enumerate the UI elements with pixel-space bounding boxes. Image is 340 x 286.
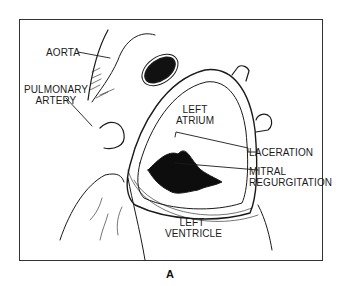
label-pulmonary-artery: PULMONARY ARTERY bbox=[24, 84, 88, 106]
label-left-ventricle-line1: LEFT bbox=[165, 217, 219, 228]
laceration-region bbox=[148, 151, 222, 193]
label-mitral-line2: REGURGITATION bbox=[249, 177, 332, 188]
left-ventricle-outline bbox=[60, 174, 124, 240]
heart-illustration bbox=[0, 0, 340, 286]
label-pulmonary-artery-line1: PULMONARY bbox=[24, 84, 88, 95]
label-mitral-line1: MITRAL bbox=[249, 166, 332, 177]
label-aorta: AORTA bbox=[46, 47, 80, 58]
panel-label: A bbox=[166, 268, 174, 280]
label-left-atrium-line1: LEFT bbox=[172, 104, 218, 115]
label-left-ventricle: LEFT VENTRICLE bbox=[165, 217, 219, 239]
aorta-pointer bbox=[78, 52, 110, 58]
label-left-atrium: LEFT ATRIUM bbox=[172, 104, 218, 126]
label-pulmonary-artery-line2: ARTERY bbox=[24, 95, 88, 106]
aortic-opening bbox=[140, 52, 179, 88]
label-mitral-regurgitation: MITRAL REGURGITATION bbox=[249, 166, 332, 188]
laceration-pointer bbox=[175, 132, 258, 152]
label-laceration: LACERATION bbox=[249, 147, 313, 158]
label-left-ventricle-line2: VENTRICLE bbox=[165, 228, 219, 239]
label-left-atrium-line2: ATRIUM bbox=[172, 115, 218, 126]
